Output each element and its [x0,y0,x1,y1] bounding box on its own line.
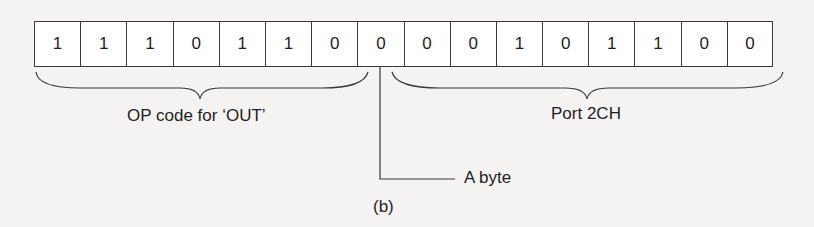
port-brace [392,72,783,99]
connector-lines [0,0,814,227]
opcode-brace [36,72,368,99]
instruction-format-diagram: 1 1 1 0 1 1 0 0 0 0 1 0 1 1 0 0 OP code … [0,0,814,227]
a-byte-pointer-line [380,67,455,179]
figure-caption: (b) [373,197,394,217]
opcode-label: OP code for ‘OUT’ [127,106,266,126]
port-label: Port 2CH [551,104,621,124]
a-byte-label: A byte [464,168,511,188]
